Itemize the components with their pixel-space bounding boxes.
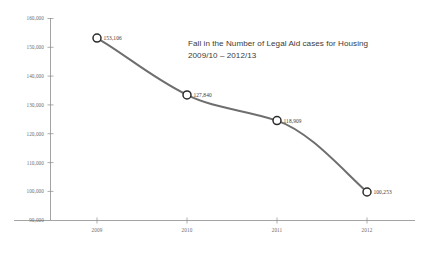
chart-container: 160,000 150,000 140,000 130,000 120,000 … bbox=[0, 0, 427, 256]
x-tick-label: 2010 bbox=[182, 227, 193, 233]
y-tick-label: 90,000 bbox=[29, 217, 44, 223]
data-point-label: 118,909 bbox=[284, 118, 302, 124]
chart-title: Fall in the Number of Legal Aid cases fo… bbox=[188, 38, 418, 61]
y-tick-label: 130,000 bbox=[26, 102, 44, 108]
data-point-label: 100,253 bbox=[374, 189, 392, 195]
data-point-label: 127,840 bbox=[194, 92, 212, 98]
data-point-marker bbox=[183, 91, 191, 99]
data-point-label: 153,106 bbox=[104, 35, 122, 41]
series-line bbox=[97, 38, 367, 192]
y-axis-ticks: 160,000 150,000 140,000 130,000 120,000 … bbox=[26, 15, 53, 223]
y-tick-label: 150,000 bbox=[26, 44, 44, 50]
y-tick-label: 100,000 bbox=[26, 188, 44, 194]
x-tick-label: 2011 bbox=[272, 227, 283, 233]
y-tick-label: 160,000 bbox=[26, 15, 44, 21]
data-point-marker bbox=[363, 188, 371, 196]
x-tick-label: 2012 bbox=[362, 227, 373, 233]
y-tick-label: 140,000 bbox=[26, 73, 44, 79]
data-point-marker bbox=[93, 34, 101, 42]
data-point-marker bbox=[273, 117, 281, 125]
y-tick-label: 120,000 bbox=[26, 131, 44, 137]
y-tick-label: 110,000 bbox=[27, 160, 45, 166]
x-tick-label: 2009 bbox=[92, 227, 103, 233]
x-axis-ticks: 2009 2010 2011 2012 bbox=[92, 218, 373, 234]
